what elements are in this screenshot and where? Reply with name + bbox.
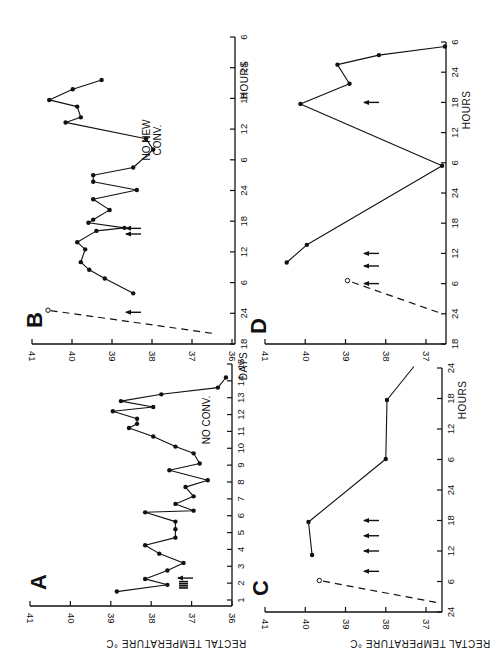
time-tick-label: 18 <box>449 218 460 229</box>
time-tick-label: 18 <box>238 216 249 227</box>
no-new-convulsion-note: NO NEW <box>141 119 152 161</box>
data-point <box>91 180 95 184</box>
data-point <box>115 589 119 593</box>
data-point <box>94 229 98 233</box>
data-point <box>157 551 161 555</box>
arrowhead-icon <box>363 569 369 574</box>
time-tick-label: 18 <box>238 339 249 350</box>
time-tick-label: 6 <box>238 157 249 162</box>
time-tick-label: 6 <box>449 281 460 286</box>
temperature-tick-label: 40 <box>66 613 77 624</box>
temperature-tick-label: 38 <box>381 351 392 362</box>
onset-dashed-line <box>348 281 439 313</box>
data-point <box>107 208 111 212</box>
temperature-tick-label: 39 <box>106 613 117 624</box>
temperature-series <box>309 400 388 555</box>
data-point <box>135 422 139 426</box>
arrowhead-icon <box>363 281 369 286</box>
data-point <box>79 115 83 119</box>
data-point <box>173 535 177 539</box>
time-tick-label: 6 <box>445 457 456 462</box>
temperature-tick-label: 37 <box>187 351 198 362</box>
data-point <box>143 543 147 547</box>
data-point <box>191 494 195 498</box>
data-point <box>191 508 195 512</box>
temperature-tick-label: 38 <box>147 613 158 624</box>
arrowhead-icon <box>363 533 369 538</box>
data-point <box>224 375 228 379</box>
panel-letter: D <box>246 318 271 334</box>
time-tick-label: 6 <box>235 513 246 518</box>
data-point <box>183 485 187 489</box>
data-point <box>305 243 309 247</box>
time-axis-title: HOURS <box>461 91 472 130</box>
time-tick-label: 13 <box>235 392 246 403</box>
convulsion-marker <box>179 583 188 585</box>
time-tick-label: 12 <box>449 127 460 138</box>
data-point <box>63 120 67 124</box>
time-tick-label: 24 <box>445 363 456 374</box>
data-point <box>173 502 177 506</box>
figure: 363738394041123456789101112131415DAYSANO… <box>0 0 502 668</box>
data-point <box>306 520 310 524</box>
time-axis-title: DAYS <box>238 352 249 381</box>
panel-letter: B <box>22 312 47 328</box>
convulsion-marker <box>179 585 188 587</box>
time-tick-label: 2 <box>235 580 246 585</box>
time-tick-label: 24 <box>445 607 456 618</box>
data-point <box>191 451 195 455</box>
temperature-tick-label: 37 <box>421 619 432 630</box>
data-point <box>181 561 185 565</box>
data-point <box>151 405 155 409</box>
temperature-figure: 363738394041123456789101112131415DAYSANO… <box>0 0 502 668</box>
data-point <box>91 173 95 177</box>
data-point <box>173 527 177 531</box>
time-tick-label: 24 <box>449 309 460 320</box>
time-tick-label: 5 <box>235 530 246 535</box>
data-point <box>173 444 177 448</box>
time-tick-label: 7 <box>235 496 246 501</box>
panel-c: 37383940412461218246121824HOURSC <box>248 363 468 630</box>
temperature-series <box>287 47 445 263</box>
data-point <box>83 247 87 251</box>
data-point <box>71 87 75 91</box>
data-point <box>298 102 302 106</box>
data-point <box>135 417 139 421</box>
data-point <box>79 260 83 264</box>
time-tick-label: 24 <box>238 308 249 319</box>
data-point <box>197 461 201 465</box>
temperature-tick-label: 41 <box>25 613 36 624</box>
onset-marker <box>345 278 349 282</box>
time-tick-label: 12 <box>238 124 249 135</box>
temperature-tick-label: 37 <box>421 351 432 362</box>
temperature-tick-label: 39 <box>341 619 352 630</box>
time-tick-label: 6 <box>445 579 456 584</box>
time-tick-label: 18 <box>445 393 456 404</box>
data-point <box>165 583 169 587</box>
data-point <box>377 53 381 57</box>
temperature-tick-label: 36 <box>227 351 238 362</box>
time-tick-label: 3 <box>235 564 246 569</box>
data-point <box>87 268 91 272</box>
time-tick-label: 6 <box>449 39 460 44</box>
time-tick-label: 6 <box>238 280 249 285</box>
convulsion-marker <box>179 581 188 583</box>
time-axis-title: HOURS <box>457 381 468 420</box>
time-tick-label: 8 <box>235 479 246 484</box>
data-point <box>285 260 289 264</box>
arrowhead-icon <box>363 549 369 554</box>
data-point <box>159 392 163 396</box>
data-point <box>165 568 169 572</box>
data-point <box>75 240 79 244</box>
time-tick-label: 24 <box>445 485 456 496</box>
data-point <box>91 217 95 221</box>
data-point <box>103 276 107 280</box>
time-tick-label: 12 <box>449 248 460 259</box>
temperature-tick-label: 41 <box>27 351 38 362</box>
temperature-tick-label: 38 <box>147 351 158 362</box>
time-tick-label: 18 <box>449 339 460 350</box>
convulsion-marker <box>179 587 188 589</box>
data-point <box>99 78 103 82</box>
data-point <box>443 44 447 48</box>
arrowhead-icon <box>125 231 131 236</box>
